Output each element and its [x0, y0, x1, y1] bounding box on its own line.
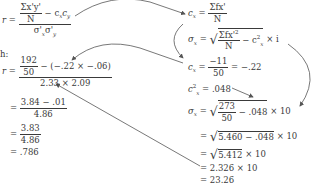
step4: = .786 — [10, 148, 39, 157]
step3: = 3.834.86 — [10, 124, 41, 144]
denominator: N — [218, 41, 240, 51]
minus-c: − c — [242, 35, 257, 45]
cx-value: cx = −1150 = −.22 — [188, 57, 262, 77]
equals: = — [200, 34, 207, 44]
result: = −.22 — [231, 62, 261, 72]
denominator: 50 — [208, 68, 228, 78]
cx-definition: cx = Σfx'N — [188, 3, 227, 23]
r-formula: r = Σx'y'N − cxcy σ'xσ'y — [2, 3, 71, 37]
r-symbol: r — [2, 66, 6, 76]
equals: = — [10, 147, 17, 157]
sigma-prime-x: σ' — [34, 25, 42, 35]
sigma-x-value: σx = √27350 − .048 × 10 — [188, 100, 291, 122]
sigma-line4: = 2.326 × 10 — [200, 164, 258, 173]
sub-y: y — [67, 13, 70, 19]
result-786: .786 — [20, 147, 39, 157]
arrow-cx-curve — [174, 24, 183, 58]
denominator: 2.33 × 2.09 — [19, 78, 112, 88]
sigma-line3: = √5.412 × 10 — [200, 148, 266, 161]
equals: = — [10, 129, 17, 139]
denominator: N — [208, 14, 226, 24]
times-i: × i — [266, 34, 279, 44]
denominator: 4.86 — [20, 109, 67, 119]
denominator: 4.86 — [20, 135, 41, 145]
cx-squared: c2x = .048 — [188, 84, 231, 96]
numerator: Σfx' — [219, 30, 235, 40]
value-50: 50 — [20, 67, 38, 77]
value-192: 192 — [20, 56, 38, 67]
arrow-cxcy-to-cx — [75, 0, 185, 16]
step1-fraction: 19250 − (−.22 × −.06) 2.33 × 2.09 — [19, 56, 112, 88]
radical: √Σfx'2N − c2x — [209, 28, 263, 51]
numerator: 3.84 − .01 — [20, 98, 67, 109]
numerator: 3.83 — [20, 124, 41, 135]
minus-c: − c — [45, 8, 60, 18]
numerator-tail: − (−.22 × −.06) — [41, 61, 111, 71]
sigma-x-definition: σx = √Σfx'2N − c2x × i — [188, 28, 279, 51]
equals: = — [10, 103, 17, 113]
r-symbol: r — [2, 15, 6, 25]
arrow-c2-to-radical — [232, 88, 253, 97]
equals: = — [199, 8, 206, 18]
value-048: .048 — [212, 84, 231, 94]
sub-x: x — [194, 40, 197, 46]
sigma-line2: = √5.460 − .048 × 10 — [200, 130, 297, 143]
equals: = — [9, 66, 16, 76]
result-2326: 23.26 — [210, 175, 234, 185]
arrow-i-to-10 — [288, 44, 310, 106]
sup-2: 2 — [235, 29, 239, 35]
sub-x: x — [193, 13, 196, 19]
sigma-line5: = 23.26 — [200, 176, 234, 185]
sum-xy: Σx'y' — [20, 3, 42, 14]
equals: = — [9, 15, 16, 25]
numerator: −11 — [208, 57, 228, 68]
n-symbol: N — [20, 14, 42, 24]
sigma-prime-y: σ' — [45, 25, 53, 35]
step2: = 3.84 − .014.86 — [10, 98, 67, 118]
arrow-2326-to-233 — [56, 84, 200, 166]
step1: r = 19250 − (−.22 × −.06) 2.33 × 2.09 — [2, 56, 112, 88]
numerator: Σfx' — [208, 3, 226, 14]
r-fraction: Σx'y'N − cxcy σ'xσ'y — [19, 3, 72, 37]
